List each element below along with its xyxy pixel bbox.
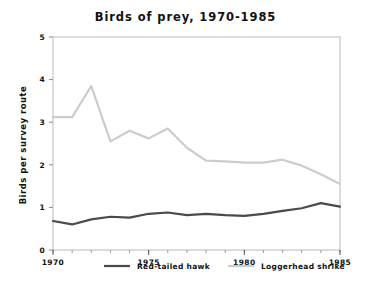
y-tick-label: 2	[39, 161, 45, 170]
legend-label: Loggerhead shrike	[261, 262, 345, 271]
chart-legend: Red-tailed hawkLoggerhead shrike	[104, 262, 345, 271]
x-tick-label: 1970	[42, 258, 64, 267]
chart-container: Birds of prey, 1970-1985 Birds per surve…	[0, 0, 371, 293]
y-tick-label: 1	[39, 203, 45, 212]
y-tick-label: 3	[39, 118, 45, 127]
y-tick-label: 5	[39, 33, 45, 42]
y-tick-label: 4	[39, 75, 45, 84]
legend-label: Red-tailed hawk	[137, 262, 211, 271]
plot-area: 0123451970197519801985 Red-tailed hawkLo…	[0, 0, 371, 293]
axes: 0123451970197519801985	[39, 33, 351, 267]
series-line	[53, 203, 340, 224]
y-tick-label: 0	[39, 246, 45, 255]
series-line	[53, 86, 340, 184]
data-series	[53, 86, 340, 224]
